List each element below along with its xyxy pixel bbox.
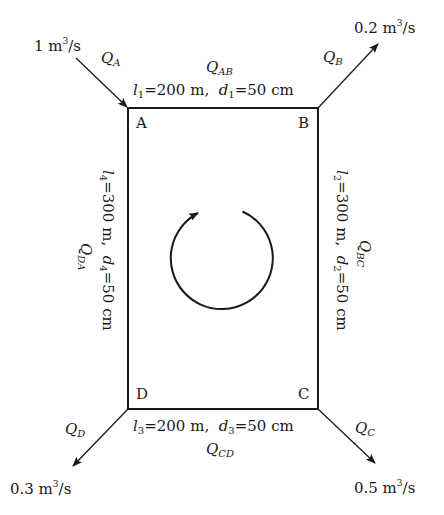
flow-label-qc: QC xyxy=(355,421,375,438)
node-label-b: B xyxy=(298,116,309,131)
pipe-bc-spec: l2=300 m, d2=50 cm xyxy=(332,170,349,331)
pipe-network-diagram: A B C D 1 m3/s QA 0.2 m3/s QB QC 0.5 m3/… xyxy=(0,0,444,515)
flow-label-qbc: QBC xyxy=(355,240,372,268)
node-label-a: A xyxy=(136,116,147,131)
outflow-value-c: 0.5 m3/s xyxy=(354,479,415,496)
node-label-d: D xyxy=(136,387,148,402)
outflow-value-d: 0.3 m3/s xyxy=(10,480,71,497)
pipe-da-spec: l4=300 m, d4=50 cm xyxy=(98,170,115,331)
pipe-ab-spec: l1=200 m, d1=50 cm xyxy=(133,83,294,100)
node-label-c: C xyxy=(298,387,309,402)
flow-label-qab: QAB xyxy=(206,60,233,77)
pipe-cd-spec: l3=200 m, d3=50 cm xyxy=(133,419,294,436)
inflow-value-a: 1 m3/s xyxy=(34,37,81,54)
outflow-value-b: 0.2 m3/s xyxy=(354,19,415,36)
clockwise-loop-arrow-icon xyxy=(171,212,273,310)
flow-label-qd: QD xyxy=(65,422,85,439)
flow-label-qb: QB xyxy=(323,50,343,67)
pipe-loop-rectangle xyxy=(128,108,318,409)
flow-label-qda: QDA xyxy=(76,243,93,271)
flow-label-qcd: QCD xyxy=(206,442,234,459)
flow-label-qa: QA xyxy=(101,51,121,68)
